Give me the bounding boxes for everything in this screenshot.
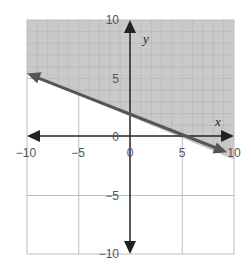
x-tick-label: 5 (179, 146, 186, 160)
y-tick-label: 10 (106, 13, 120, 27)
x-tick-label: −5 (71, 146, 85, 160)
y-tick-label: −10 (99, 247, 120, 261)
x-axis-label: x (214, 114, 221, 129)
y-axis-label: y (141, 31, 149, 46)
coordinate-plane: −10 −5 0 5 10 10 5 0 −5 −10 y x (0, 0, 251, 274)
x-tick-label: −10 (16, 146, 37, 160)
y-tick-label: 5 (112, 72, 119, 86)
x-tick-label: 0 (127, 146, 134, 160)
y-tick-label: −5 (105, 189, 119, 203)
y-tick-label: 0 (112, 130, 119, 144)
x-tick-label: 10 (227, 146, 241, 160)
